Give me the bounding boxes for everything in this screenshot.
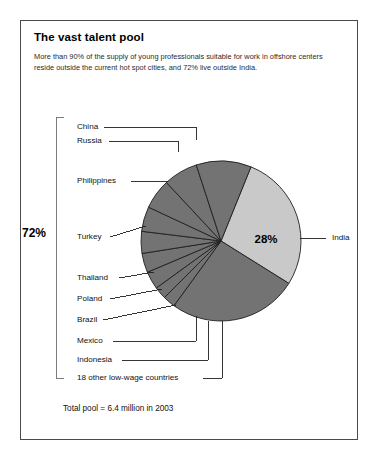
bracket-path [56, 117, 64, 378]
callout-label-mexico: Mexico [77, 336, 103, 345]
callout-label-brazil: Brazil [77, 315, 97, 324]
pie-chart-svg: 28% [0, 0, 378, 465]
leader-line-other-countries [203, 321, 222, 378]
callout-label-philippines: Philippines [77, 176, 116, 185]
leader-line-brazil [103, 305, 176, 320]
leader-line-turkey [110, 226, 146, 237]
callout-label-china: China [77, 122, 98, 131]
leader-line-russia [109, 141, 178, 152]
figure-footnote: Total pool = 6.4 million in 2003 [63, 404, 173, 413]
leader-line-indonesia [122, 321, 208, 360]
callout-label-other-countries: 18 other low-wage countries [77, 373, 178, 382]
callout-label-india: India [332, 233, 350, 242]
callout-label-turkey: Turkey [77, 232, 101, 241]
callout-label-poland: Poland [77, 294, 102, 303]
callout-label-indonesia: Indonesia [77, 355, 112, 364]
leader-line-mexico [113, 316, 196, 341]
bracket-72 [56, 117, 64, 378]
leader-line-china [104, 127, 196, 140]
leader-line-poland [110, 289, 162, 299]
callout-label-russia: Russia [77, 136, 102, 145]
chart-figure: The vast talent pool More than 90% of th… [0, 0, 378, 465]
india-slice-value-label: 28% [254, 233, 277, 245]
callout-label-thailand: Thailand [77, 273, 108, 282]
